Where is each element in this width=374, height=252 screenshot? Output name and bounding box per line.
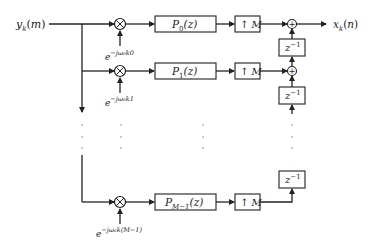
exponent-label-1: e−jω₀k1	[105, 95, 134, 108]
svg-text:+: +	[289, 67, 296, 76]
output-label: xk(n)	[333, 18, 358, 33]
upsampler-label-0: ↑ M	[240, 19, 263, 30]
upsampler-label-m1: ↑ M	[240, 197, 263, 208]
svg-text:+: +	[289, 20, 296, 29]
branch-m-1: e−jω₀k(M−1) PM−1(z) ↑ M z−1	[96, 171, 305, 239]
ellipsis-dots	[81, 124, 293, 149]
branch-0: e−jω₀k0 P0(z) ↑ M + xk(n)	[105, 16, 358, 62]
exponent-label-0: e−jω₀k0	[105, 49, 134, 62]
exponent-label-m1: e−jω₀k(M−1)	[96, 226, 142, 239]
branch-1: e−jω₀k1 P1(z) ↑ M +	[105, 63, 297, 108]
filter-bank-diagram: yk(m) e−jω₀k0 P0(z) ↑ M + xk(n) z−1 e−jω…	[0, 0, 374, 252]
input-label: yk(m)	[15, 18, 46, 33]
upsampler-label-1: ↑ M	[240, 66, 263, 77]
